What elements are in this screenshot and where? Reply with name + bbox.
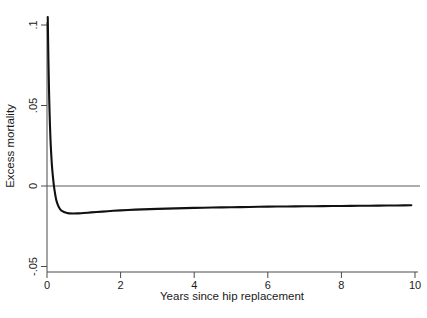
- y-tick-label: -.05: [27, 257, 39, 276]
- x-tick-label: 0: [44, 279, 50, 291]
- x-tick-label: 8: [338, 279, 344, 291]
- excess-mortality-line-chart: -.050.05.1 0246810 Excess mortality Year…: [0, 0, 427, 318]
- y-tick-label: .1: [27, 20, 39, 29]
- x-tick-label: 2: [118, 279, 124, 291]
- y-tick-label: 0: [27, 183, 39, 189]
- y-axis-title: Excess mortality: [4, 104, 16, 188]
- y-tick-label: .05: [27, 98, 39, 113]
- x-tick-label: 10: [409, 279, 421, 291]
- x-axis-title: Years since hip replacement: [160, 290, 305, 302]
- chart-background: [0, 0, 427, 318]
- chart-figure: -.050.05.1 0246810 Excess mortality Year…: [0, 0, 427, 318]
